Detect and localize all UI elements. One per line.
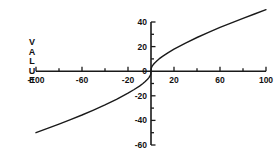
y-axis-tick-label: 40: [121, 18, 147, 27]
x-axis-tick-label: 60: [215, 76, 224, 85]
x-axis-tick-label: 100: [259, 76, 273, 85]
y-axis-tick-label: 0: [121, 67, 147, 76]
axes-group: [36, 22, 266, 145]
x-axis-tick-label: -60: [76, 76, 88, 85]
y-axis-tick-label: -40: [121, 116, 147, 125]
y-axis-tick-label: 20: [121, 42, 147, 51]
y-axis-tick-label: -60: [121, 141, 147, 150]
x-axis-tick-label: -20: [122, 76, 134, 85]
chart-figure: V A L U E -100-60-20206010040200-20-40-6…: [0, 0, 277, 158]
y-axis-tick-label: -20: [121, 91, 147, 100]
x-axis-tick-label: -100: [27, 76, 44, 85]
x-axis-tick-label: 20: [169, 76, 178, 85]
